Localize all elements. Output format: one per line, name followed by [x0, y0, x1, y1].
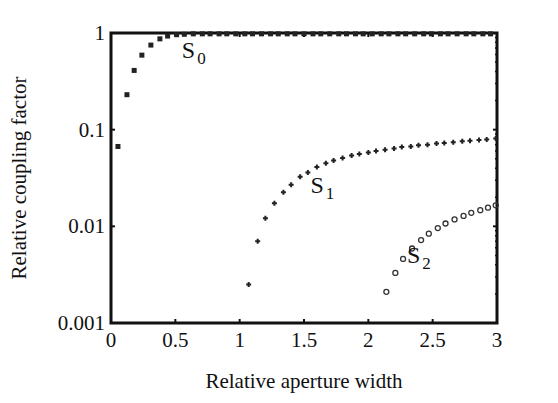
x-marker: [302, 31, 307, 36]
x-tick-label: 3: [492, 328, 503, 352]
circle-marker: [401, 256, 406, 261]
plus-marker: [323, 161, 328, 166]
circle-marker: [393, 270, 398, 275]
series-annotations: S0S1S2: [182, 37, 431, 273]
x-marker: [403, 31, 408, 36]
x-marker: [379, 31, 384, 36]
plus-marker: [460, 139, 465, 144]
y-tick-label: 0.1: [79, 118, 105, 142]
x-marker: [200, 31, 205, 36]
y-axis-title: Relative coupling factor: [7, 77, 31, 280]
y-tick-label: 1: [95, 21, 106, 45]
y-tick-labels: 0.0010.010.11: [58, 21, 105, 335]
x-marker: [165, 34, 170, 39]
series-s1: [246, 136, 498, 287]
x-marker: [327, 31, 332, 36]
axis-ticks: [111, 33, 497, 323]
x-marker: [208, 31, 213, 36]
x-marker: [361, 31, 366, 36]
x-marker: [268, 31, 273, 36]
plus-marker: [484, 137, 489, 142]
circle-marker: [478, 208, 483, 213]
series-label-s2: S2: [407, 242, 431, 273]
plus-marker: [331, 158, 336, 163]
circle-marker: [435, 226, 440, 231]
x-marker: [438, 31, 443, 36]
plus-marker: [383, 147, 388, 152]
series-label-s0: S0: [182, 37, 206, 68]
x-marker: [318, 31, 323, 36]
plus-marker: [476, 138, 481, 143]
plus-marker: [255, 239, 260, 244]
x-marker: [488, 31, 493, 36]
x-marker: [421, 31, 426, 36]
x-marker: [191, 31, 196, 36]
plus-marker: [314, 165, 319, 170]
x-marker: [139, 53, 144, 58]
x-tick-label: 0: [106, 328, 117, 352]
y-tick-label: 0.001: [58, 311, 105, 335]
x-marker: [259, 31, 264, 36]
plus-marker: [366, 150, 371, 155]
x-marker: [292, 31, 297, 36]
x-marker: [276, 31, 281, 36]
circle-marker: [384, 289, 389, 294]
x-marker: [182, 32, 187, 37]
x-tick-label: 1.5: [291, 328, 317, 352]
x-marker: [224, 31, 229, 36]
x-axis-title: Relative aperture width: [205, 369, 403, 393]
x-marker: [395, 31, 400, 36]
x-marker: [464, 31, 469, 36]
plus-marker: [263, 216, 268, 221]
x-marker: [157, 36, 162, 41]
plus-marker: [416, 143, 421, 148]
circle-marker: [461, 213, 466, 218]
x-tick-label: 2.5: [420, 328, 446, 352]
circle-marker: [426, 231, 431, 236]
plus-marker: [340, 155, 345, 160]
plus-marker: [408, 144, 413, 149]
x-tick-label: 2: [363, 328, 374, 352]
x-marker: [115, 144, 120, 149]
plus-marker: [451, 140, 456, 145]
plus-marker: [425, 142, 430, 147]
x-marker: [455, 31, 460, 36]
axes-frame: [111, 33, 497, 323]
circle-marker: [469, 210, 474, 215]
x-marker: [242, 31, 247, 36]
x-marker: [285, 31, 290, 36]
plus-marker: [246, 282, 251, 287]
plus-marker: [272, 201, 277, 206]
plus-marker: [298, 174, 303, 179]
x-marker: [353, 31, 358, 36]
x-marker: [480, 31, 485, 36]
series-s0: [115, 31, 493, 149]
x-marker: [132, 68, 137, 73]
x-tick-label: 0.5: [162, 328, 188, 352]
plus-marker: [392, 146, 397, 151]
x-tick-labels: 00.511.522.53: [106, 328, 503, 352]
series-label-s1: S1: [310, 172, 334, 203]
plus-marker: [434, 141, 439, 146]
x-marker: [124, 92, 129, 97]
x-marker: [344, 31, 349, 36]
x-marker: [370, 31, 375, 36]
x-marker: [471, 31, 476, 36]
series-markers: [115, 31, 498, 294]
x-marker: [336, 31, 341, 36]
plus-marker: [349, 153, 354, 158]
x-marker: [386, 31, 391, 36]
x-marker: [446, 31, 451, 36]
plus-marker: [467, 138, 472, 143]
plus-marker: [281, 190, 286, 195]
circle-marker: [452, 217, 457, 222]
series-s2: [384, 203, 498, 295]
x-marker: [412, 31, 417, 36]
plus-marker: [374, 149, 379, 154]
y-tick-label: 0.01: [68, 214, 105, 238]
x-marker: [148, 43, 153, 48]
plus-marker: [357, 152, 362, 157]
plus-marker: [442, 140, 447, 145]
coupling-factor-chart: 00.511.522.53 0.0010.010.11 S0S1S2 Relat…: [0, 0, 558, 403]
circle-marker: [443, 221, 448, 226]
